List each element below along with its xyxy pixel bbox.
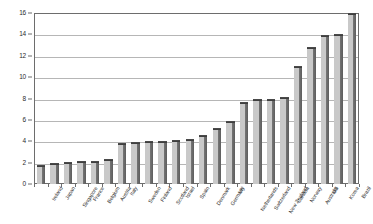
y-tick-mark — [28, 141, 32, 142]
y-tick-mark — [28, 184, 32, 185]
x-tick-label: Spain — [199, 186, 210, 200]
bar — [240, 102, 248, 184]
bar — [348, 13, 356, 184]
bar-top-edge — [213, 129, 221, 130]
bar-top-edge — [50, 164, 58, 165]
bar — [294, 66, 302, 184]
bar-top-edge — [186, 140, 194, 141]
bar-body — [213, 128, 221, 184]
bar-top-edge — [253, 100, 261, 101]
x-tick-mark — [359, 184, 360, 187]
bar — [104, 159, 112, 184]
bar-body — [199, 135, 207, 184]
y-tick-label: 6 — [23, 117, 26, 124]
bar-top-edge — [334, 35, 342, 36]
bar-top-edge — [226, 122, 234, 123]
bar-body — [240, 102, 248, 184]
x-tick-label: Korea — [348, 186, 360, 200]
bar — [226, 121, 234, 184]
bar — [186, 139, 194, 184]
bar — [131, 142, 139, 184]
bar-top-edge — [118, 144, 126, 145]
bar-top-edge — [348, 14, 356, 15]
y-tick-label: 14 — [19, 31, 26, 38]
bar-body — [172, 140, 180, 184]
bar-body — [307, 47, 315, 184]
y-tick-mark — [28, 13, 32, 14]
x-tick-label: Canada — [296, 186, 310, 204]
y-tick-mark — [28, 34, 32, 35]
y-tick-label: 10 — [19, 74, 26, 81]
y-tick-label: 4 — [23, 138, 26, 145]
y-tick-label: 8 — [23, 95, 26, 102]
y-tick-label: 0 — [23, 181, 26, 188]
y-axis: 0246810121416 — [0, 13, 32, 184]
bar-top-edge — [199, 136, 207, 137]
x-tick-label: Brazil — [361, 186, 372, 200]
bar — [91, 161, 99, 185]
bar-body — [37, 165, 45, 184]
bar — [253, 99, 261, 185]
x-tick-label: Sweden — [147, 186, 161, 205]
x-axis-labels: IrelandJapanSingaporeFranceBelgiumAustri… — [34, 186, 359, 224]
bar-body — [186, 139, 194, 184]
bar-top-edge — [172, 141, 180, 142]
bar-body — [145, 141, 153, 184]
bar-top-edge — [267, 100, 275, 101]
bar — [50, 163, 58, 184]
bar-body — [321, 35, 329, 184]
bar-top-edge — [131, 143, 139, 144]
bar — [321, 35, 329, 184]
y-tick-mark — [28, 119, 32, 120]
bar-top-edge — [104, 160, 112, 161]
bar — [158, 141, 166, 184]
bar-body — [104, 159, 112, 184]
bar — [118, 143, 126, 184]
bar-body — [118, 143, 126, 184]
y-tick-mark — [28, 162, 32, 163]
bar-top-edge — [321, 36, 329, 37]
bar-body — [226, 121, 234, 184]
y-tick-label: 2 — [23, 159, 26, 166]
bar — [172, 140, 180, 184]
bar-top-edge — [280, 98, 288, 99]
x-tick-label: Belgium — [107, 186, 121, 204]
bar — [64, 162, 72, 184]
y-tick-label: 12 — [19, 53, 26, 60]
bar — [37, 165, 45, 184]
bar-body — [64, 162, 72, 184]
bar — [145, 141, 153, 184]
y-tick-label: 16 — [19, 10, 26, 17]
bar-top-edge — [145, 142, 153, 143]
bar — [199, 135, 207, 184]
bar-body — [77, 161, 85, 185]
bar — [267, 99, 275, 185]
x-tick-label: Japan — [64, 186, 76, 201]
bar-body — [131, 142, 139, 184]
bar-body — [158, 141, 166, 184]
bar-top-edge — [91, 162, 99, 163]
bar-body — [91, 161, 99, 185]
y-tick-mark — [28, 77, 32, 78]
bar-body — [348, 13, 356, 184]
bar-top-edge — [158, 142, 166, 143]
x-tick-label: Italy — [130, 186, 139, 197]
bar-body — [294, 66, 302, 184]
bar-body — [334, 34, 342, 184]
bar-top-edge — [77, 162, 85, 163]
bar-top-edge — [37, 166, 45, 167]
y-tick-mark — [28, 98, 32, 99]
bar — [280, 97, 288, 184]
y-tick-mark — [28, 55, 32, 56]
bar — [77, 161, 85, 185]
bar — [307, 47, 315, 184]
bars-layer — [34, 13, 359, 184]
x-tick-label: US — [332, 186, 340, 195]
bar-body — [50, 163, 58, 184]
bar-top-edge — [294, 67, 302, 68]
x-tick-label: Ireland — [51, 186, 64, 202]
bar-body — [253, 99, 261, 185]
x-tick-label: Norway — [309, 186, 323, 204]
bar-top-edge — [307, 48, 315, 49]
